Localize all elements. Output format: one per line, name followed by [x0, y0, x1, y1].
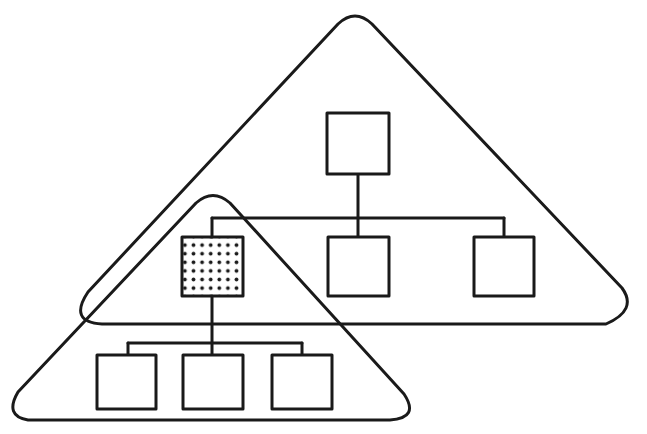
node-mid-right: [474, 237, 534, 296]
node-mid-left-shaded: [182, 237, 243, 296]
node-top-root: [327, 113, 389, 174]
node-mid-center: [328, 237, 389, 296]
node-bottom-right: [272, 355, 332, 409]
node-bottom-left: [97, 355, 156, 409]
node-bottom-center: [183, 355, 243, 409]
diagram-svg: [0, 0, 647, 434]
hierarchy-diagram: [0, 0, 647, 434]
